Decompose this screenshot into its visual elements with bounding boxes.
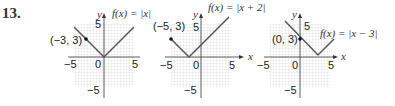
y-axis-label: y (192, 8, 198, 20)
function-label: f(x) = |x + 2| (208, 1, 266, 14)
graphs-figure: (−3, 3) y f(x) = |x| 5 −5 0 5 −5 (−5, 3)… (0, 0, 395, 106)
point-marker (298, 37, 302, 41)
point-label: (0, 3) (272, 33, 298, 45)
tick-x-5: 5 (132, 58, 138, 70)
y-axis-arrow-icon (199, 13, 203, 18)
tick-y-neg5: −5 (284, 84, 297, 96)
tick-x-neg5: −5 (257, 59, 270, 71)
graph-2: (−5, 3) y f(x) = |x + 2| x 5 −5 0 5 −5 (153, 1, 266, 98)
tick-x-5: 5 (229, 59, 235, 71)
y-axis-arrow-icon (102, 13, 106, 18)
x-axis-label: x (247, 50, 253, 62)
tick-origin: 0 (292, 59, 298, 71)
graph-3: (0, 3) y f(x) = |x − 3| x 5 −5 0 5 −5 (257, 8, 378, 98)
point-label: (−3, 3) (50, 34, 82, 46)
tick-y-neg5: −5 (184, 84, 197, 96)
tick-y-5: 5 (304, 20, 310, 32)
tick-x-neg5: −5 (160, 59, 173, 71)
point-marker (169, 37, 173, 41)
tick-y-5: 5 (95, 18, 101, 30)
tick-origin: 0 (95, 58, 101, 70)
y-axis-arrow-icon (298, 13, 302, 18)
point-marker (84, 37, 88, 41)
tick-y-neg5: −5 (87, 84, 100, 96)
function-label: f(x) = |x − 3| (320, 27, 378, 40)
graph-1: (−3, 3) y f(x) = |x| 5 −5 0 5 −5 (50, 7, 151, 98)
point-label: (−5, 3) (153, 20, 185, 32)
function-label: f(x) = |x| (112, 7, 151, 20)
tick-x-5: 5 (328, 59, 334, 71)
x-axis-arrow-icon (239, 55, 244, 59)
tick-x-neg5: −5 (64, 58, 77, 70)
x-axis-label: x (340, 50, 346, 62)
tick-origin: 0 (193, 59, 199, 71)
tick-y-5: 5 (193, 21, 199, 33)
y-axis-label: y (291, 8, 297, 20)
